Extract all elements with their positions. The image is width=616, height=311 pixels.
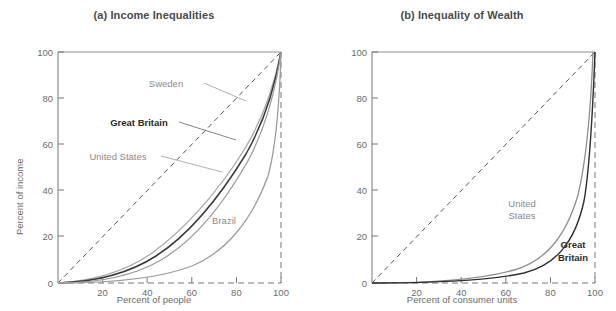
- y-ticks-b: [372, 52, 378, 283]
- label-sweden: Sweden: [149, 78, 183, 89]
- y-tick-label-0-b: 0: [362, 278, 367, 289]
- panel-a-plot: 0 20 40 60 80 100 20 40 60 80 100: [0, 0, 308, 311]
- panel-a-ylabel: Percent of income: [14, 158, 25, 235]
- y-tick-label-20-a: 20: [42, 231, 53, 242]
- panel-b-plot: 0 20 40 60 80 100 20 40 60 80 100 United…: [308, 0, 616, 311]
- label-great-britain-b-line2: Britain: [558, 252, 588, 263]
- label-united-states-b-line2: States: [509, 210, 536, 221]
- panel-a-xlabel: Percent of people: [0, 294, 308, 305]
- leader-great-britain-a: [179, 122, 236, 140]
- panel-inequality-of-wealth: (b) Inequality of Wealth 0 20 40 60 80 1…: [308, 0, 616, 311]
- y-tick-label-60-a: 60: [42, 139, 53, 150]
- y-tick-label-100-a: 100: [37, 47, 53, 58]
- y-tick-label-40-b: 40: [356, 185, 367, 196]
- y-ticks-a: [58, 52, 64, 283]
- label-brazil: Brazil: [212, 215, 236, 226]
- y-tick-label-20-b: 20: [356, 231, 367, 242]
- panel-b-xlabel: Percent of consumer units: [308, 294, 616, 305]
- y-tick-label-80-a: 80: [42, 93, 53, 104]
- y-tick-label-0-a: 0: [48, 278, 53, 289]
- y-tick-label-40-a: 40: [42, 185, 53, 196]
- label-united-states-a: United States: [89, 151, 146, 162]
- label-great-britain-b-line1: Great: [561, 239, 587, 250]
- y-tick-label-80-b: 80: [356, 93, 367, 104]
- leader-sweden: [204, 83, 246, 101]
- panel-income-inequalities: (a) Income Inequalities 0 20 40 60 80 10: [0, 0, 308, 311]
- leader-united-states-a: [161, 156, 222, 172]
- lorenz-curve-figure: (a) Income Inequalities 0 20 40 60 80 10: [0, 0, 616, 311]
- label-great-britain-a: Great Britain: [110, 117, 168, 128]
- y-tick-label-60-b: 60: [356, 139, 367, 150]
- y-tick-label-100-b: 100: [351, 47, 367, 58]
- label-united-states-b-line1: United: [508, 198, 535, 209]
